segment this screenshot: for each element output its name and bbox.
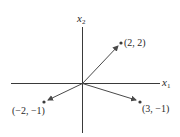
point-neg2-neg1	[42, 100, 45, 103]
point-label-2-2: (2, 2)	[124, 38, 146, 48]
x1-axis-label-subscript: 1	[167, 82, 171, 90]
point-label-neg2-neg1: (−2, −1)	[12, 106, 45, 116]
vector-neg2-neg1	[48, 84, 83, 101]
x1-axis-label: x1	[162, 77, 170, 90]
diagram-svg	[0, 0, 180, 137]
x2-axis-label-subscript: 2	[82, 18, 86, 26]
vector-3-neg1	[83, 84, 137, 101]
point-label-3-neg1: (3, −1)	[142, 104, 169, 114]
vector-diagram: x2 x1 (2, 2) (3, −1) (−2, −1)	[0, 0, 180, 137]
x2-axis-label: x2	[77, 13, 85, 26]
vector-2-2	[83, 46, 119, 84]
point-2-2	[119, 41, 122, 44]
